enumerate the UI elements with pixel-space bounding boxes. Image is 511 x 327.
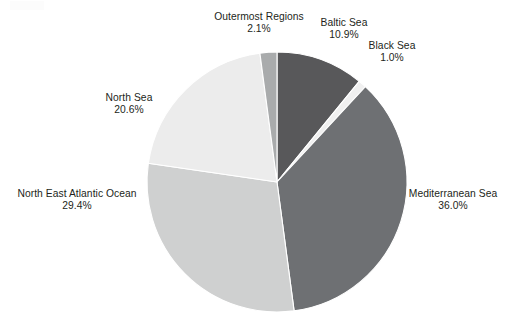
slice-label-name: Mediterranean Sea: [396, 188, 510, 200]
slice-label-value: 1.0%: [350, 52, 434, 64]
slice-label-name: North Sea: [84, 92, 174, 104]
slice-label-value: 20.6%: [84, 104, 174, 116]
pie-slice-north-east-atlantic-ocean: [147, 163, 294, 312]
slice-label-name: North East Atlantic Ocean: [1, 188, 153, 200]
slice-label-name: Baltic Sea: [301, 17, 387, 29]
slice-label-north-east-atlantic-ocean: North East Atlantic Ocean 29.4%: [1, 188, 153, 212]
slice-label-north-sea: North Sea 20.6%: [84, 92, 174, 116]
pie-chart: Outermost Regions 2.1% Baltic Sea 10.9% …: [0, 0, 511, 327]
slice-label-black-sea: Black Sea 1.0%: [350, 40, 434, 64]
slice-label-baltic-sea: Baltic Sea 10.9%: [301, 17, 387, 41]
pie-slice-north-sea: [148, 53, 277, 182]
slice-label-value: 36.0%: [396, 200, 510, 212]
slice-label-name: Black Sea: [350, 40, 434, 52]
pie-chart-graphic: [0, 0, 511, 327]
slice-label-value: 29.4%: [1, 200, 153, 212]
pie-slice-group: [147, 52, 407, 312]
slice-label-mediterranean-sea: Mediterranean Sea 36.0%: [396, 188, 510, 212]
